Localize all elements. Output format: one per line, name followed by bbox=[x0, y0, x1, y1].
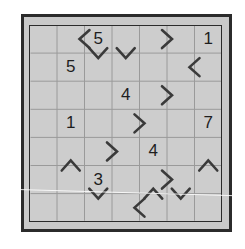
grid-cell-r6-c0[interactable] bbox=[30, 194, 58, 222]
grid-cell-r4-c3[interactable] bbox=[112, 137, 140, 165]
clue-digit: 1 bbox=[57, 109, 85, 137]
clue-digit: 5 bbox=[57, 53, 85, 81]
grid-cell-r1-c3[interactable] bbox=[112, 53, 140, 81]
grid-cell-r2-c1[interactable] bbox=[57, 81, 85, 109]
grid-cell-r2-c2[interactable] bbox=[85, 81, 113, 109]
grid-cell-r2-c6[interactable] bbox=[195, 81, 223, 109]
grid-cell-r2-c4[interactable] bbox=[140, 81, 168, 109]
grid-cell-r6-c1[interactable] bbox=[57, 194, 85, 222]
grid-cell-r4-c1[interactable] bbox=[57, 137, 85, 165]
clue-digit: 4 bbox=[140, 137, 168, 165]
grid-cell-r2-c5[interactable] bbox=[167, 81, 195, 109]
grid-cell-r0-c0[interactable] bbox=[30, 25, 58, 53]
grid-cell-r6-c2[interactable] bbox=[85, 194, 113, 222]
grid-cell-r4-c2[interactable] bbox=[85, 137, 113, 165]
grid-cell-r0-c3[interactable] bbox=[112, 25, 140, 53]
grid-cell-r3-c2[interactable] bbox=[85, 109, 113, 137]
grid-cell-r5-c0[interactable] bbox=[30, 166, 58, 194]
grid-cell-r6-c4[interactable] bbox=[140, 194, 168, 222]
grid-cell-r6-c6[interactable] bbox=[195, 194, 223, 222]
grid-cell-r1-c0[interactable] bbox=[30, 53, 58, 81]
grid-cell-r1-c2[interactable] bbox=[85, 53, 113, 81]
grid-cell-r5-c4[interactable] bbox=[140, 166, 168, 194]
grid-cell-r5-c1[interactable] bbox=[57, 166, 85, 194]
clue-digit: 3 bbox=[85, 166, 113, 194]
clue-digit: 5 bbox=[85, 25, 113, 53]
grid-cell-r3-c5[interactable] bbox=[167, 109, 195, 137]
grid-cell-r3-c4[interactable] bbox=[140, 109, 168, 137]
clue-digit: 1 bbox=[195, 25, 223, 53]
grid-cell-r5-c6[interactable] bbox=[195, 166, 223, 194]
grid-cell-r4-c5[interactable] bbox=[167, 137, 195, 165]
grid-cell-r4-c6[interactable] bbox=[195, 137, 223, 165]
grid-cell-r0-c5[interactable] bbox=[167, 25, 195, 53]
grid-cell-r6-c5[interactable] bbox=[167, 194, 195, 222]
grid-cell-r2-c0[interactable] bbox=[30, 81, 58, 109]
grid-cell-r0-c4[interactable] bbox=[140, 25, 168, 53]
grid-cell-r0-c1[interactable] bbox=[57, 25, 85, 53]
grid-cell-r1-c6[interactable] bbox=[195, 53, 223, 81]
clue-digit: 7 bbox=[195, 109, 223, 137]
grid-cell-r3-c3[interactable] bbox=[112, 109, 140, 137]
grid-cell-r5-c5[interactable] bbox=[167, 166, 195, 194]
grid-cell-r3-c0[interactable] bbox=[30, 109, 58, 137]
grid-cell-r1-c5[interactable] bbox=[167, 53, 195, 81]
grid-cell-r1-c4[interactable] bbox=[140, 53, 168, 81]
clue-digit: 4 bbox=[112, 81, 140, 109]
grid-cell-r6-c3[interactable] bbox=[112, 194, 140, 222]
grid-cell-r5-c3[interactable] bbox=[112, 166, 140, 194]
grid-cell-r4-c0[interactable] bbox=[30, 137, 58, 165]
